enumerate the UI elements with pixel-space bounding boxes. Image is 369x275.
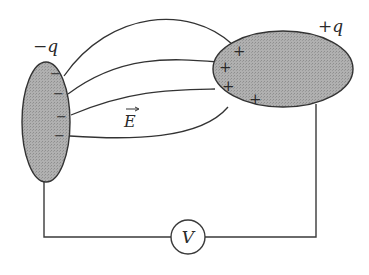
svg-text:E: E	[123, 112, 136, 131]
svg-text:−: −	[53, 86, 64, 101]
field-label: E	[123, 107, 139, 131]
circuit-wire	[44, 104, 316, 237]
svg-text:−: −	[56, 109, 67, 124]
positive-charge-label: +q	[318, 16, 343, 36]
capacitor-diagram: − − − − + + + + −q +q E V	[0, 0, 369, 275]
svg-text:−: −	[50, 66, 61, 81]
svg-text:+: +	[222, 77, 235, 95]
negative-charge-label: −q	[33, 36, 58, 56]
svg-text:V: V	[182, 227, 196, 247]
svg-text:+: +	[249, 90, 262, 108]
voltmeter: V	[171, 220, 205, 254]
svg-text:+: +	[219, 58, 232, 76]
svg-text:+: +	[233, 42, 246, 60]
svg-text:−: −	[54, 128, 65, 143]
field-lines	[64, 19, 232, 137]
